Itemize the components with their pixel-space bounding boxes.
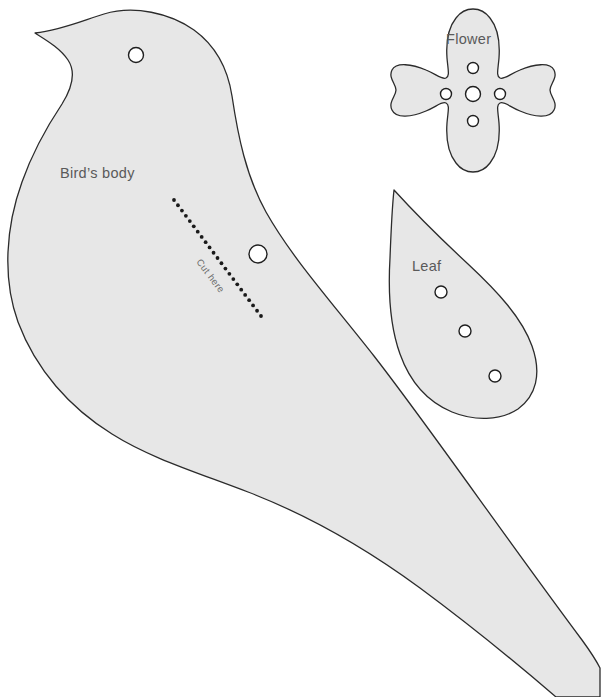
cut-line-dot [259, 314, 263, 318]
cut-line-dot [188, 219, 192, 223]
pattern-canvas: Bird’s body Cut here Flower Leaf [0, 0, 601, 697]
cut-line-dot [196, 230, 200, 234]
cut-line-dot [192, 224, 196, 228]
cut-line-dot [243, 293, 247, 297]
leaf-hole-3[interactable] [489, 370, 501, 382]
cut-line-dot [235, 282, 239, 286]
cut-line-dot [231, 277, 235, 281]
cut-line-dot [255, 309, 259, 313]
cut-line-dot [224, 267, 228, 271]
flower-label: Flower [446, 31, 491, 47]
leaf-hole-1[interactable] [435, 286, 447, 298]
cut-line-dot [247, 298, 251, 302]
pattern-sheet: Bird’s body Cut here Flower Leaf [0, 0, 601, 697]
leaf-outline[interactable] [389, 190, 537, 418]
piece-leaf[interactable]: Leaf [389, 190, 537, 418]
cut-line-dot [239, 288, 243, 292]
flower-top-hole[interactable] [468, 63, 479, 74]
cut-line-dot [200, 235, 204, 239]
cut-line-dot [220, 261, 224, 265]
cut-line-dot [172, 198, 176, 202]
bird-body-label: Bird’s body [60, 165, 135, 181]
flower-right-hole[interactable] [495, 89, 506, 100]
cut-line-dot [216, 256, 220, 260]
leaf-label: Leaf [412, 258, 442, 274]
cut-line-dot [212, 251, 216, 255]
body-hole[interactable] [249, 245, 267, 263]
cut-line-dot [251, 304, 255, 308]
cut-line-dot [208, 246, 212, 250]
leaf-hole-2[interactable] [459, 325, 471, 337]
flower-bottom-hole[interactable] [468, 116, 479, 127]
cut-line-dot [227, 272, 231, 276]
cut-line-dot [184, 214, 188, 218]
eye-hole[interactable] [129, 48, 144, 63]
cut-line-dot [204, 240, 208, 244]
flower-center-hole[interactable] [466, 87, 481, 102]
cut-line-dot [180, 209, 184, 213]
flower-left-hole[interactable] [441, 89, 452, 100]
cut-line-dot [176, 203, 180, 207]
piece-flower[interactable]: Flower [391, 9, 555, 172]
